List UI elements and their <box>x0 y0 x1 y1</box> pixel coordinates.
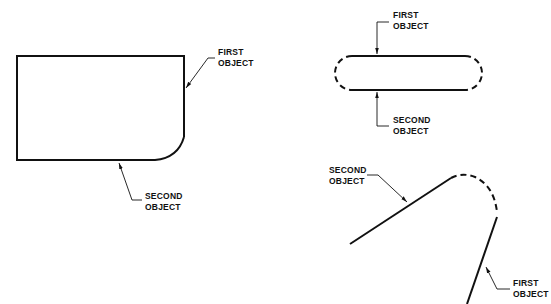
leader-first-object <box>186 58 215 88</box>
label-line: OBJECT <box>513 289 549 300</box>
label-line: FIRST <box>393 10 429 21</box>
label-line: OBJECT <box>145 202 183 213</box>
label-line: OBJECT <box>393 126 431 137</box>
label-second-object: SECOND OBJECT <box>393 115 431 137</box>
figure-angled-lines <box>350 175 510 304</box>
figure-slot <box>335 22 482 126</box>
label-line: OBJECT <box>329 176 367 187</box>
left-dashed-end <box>335 56 352 90</box>
leader-second-object <box>367 175 407 202</box>
diagram-canvas: FIRST OBJECT SECOND OBJECT FIRST OBJECT … <box>0 0 551 304</box>
figure-fillet-rectangle <box>17 56 215 200</box>
label-line: FIRST <box>513 278 549 289</box>
label-line: SECOND <box>145 191 183 202</box>
leader-first-object <box>377 22 389 54</box>
first-object-line <box>467 217 497 304</box>
dashed-fillet-arc <box>451 175 497 212</box>
label-first-object: FIRST OBJECT <box>513 278 549 300</box>
right-dashed-end <box>465 56 482 90</box>
label-first-object: FIRST OBJECT <box>218 47 254 69</box>
label-line: OBJECT <box>218 58 254 69</box>
leader-second-object <box>377 92 389 126</box>
label-line: SECOND <box>393 115 431 126</box>
diagram-drawing <box>0 0 551 304</box>
second-object-line <box>350 178 451 244</box>
label-second-object: SECOND OBJECT <box>329 165 367 187</box>
label-line: OBJECT <box>393 21 429 32</box>
first-second-object-outline <box>17 56 184 160</box>
leader-second-object <box>119 163 142 200</box>
label-second-object: SECOND OBJECT <box>145 191 183 213</box>
label-first-object: FIRST OBJECT <box>393 10 429 32</box>
label-line: FIRST <box>218 47 254 58</box>
leader-first-object <box>486 267 510 289</box>
label-line: SECOND <box>329 165 367 176</box>
